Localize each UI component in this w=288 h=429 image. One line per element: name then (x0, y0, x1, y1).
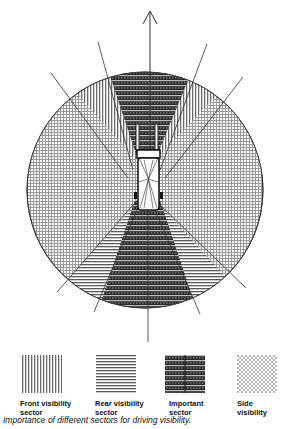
important-pattern-swatch (165, 355, 205, 393)
legend-item-rear: Rear visibilitysector (96, 355, 136, 397)
rear-pattern-swatch (96, 355, 136, 393)
legend-item-front: Front visibilitysector (22, 355, 62, 397)
legend-item-side: Sidevisibility (237, 355, 277, 397)
legend-label-side: Sidevisibility (237, 399, 267, 417)
legend-item-important: Importantsector (165, 355, 205, 397)
visibility-diagram (0, 0, 288, 350)
front-pattern-swatch (22, 355, 62, 393)
side-pattern-swatch (237, 355, 277, 393)
figure-caption: Importance of different sectors for driv… (3, 415, 191, 425)
legend: Front visibilitysector Rear visibilityse… (0, 355, 288, 415)
